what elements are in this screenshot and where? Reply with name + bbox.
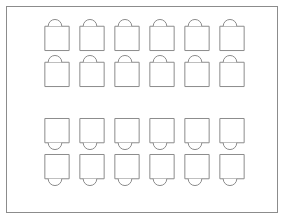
table-shape [185,154,209,178]
seat-unit[interactable] [75,154,109,188]
table-shape [220,62,244,86]
chair-shape [118,179,132,186]
table-shape [80,118,104,142]
seat-unit[interactable] [215,54,249,88]
seat-unit[interactable] [40,54,74,88]
table-shape [220,118,244,142]
chair-shape [83,19,97,26]
chair-shape [188,179,202,186]
chair-shape [223,179,237,186]
chair-shape [48,179,62,186]
chair-shape [223,19,237,26]
table-shape [115,154,139,178]
table-shape [150,26,174,50]
chair-shape [153,143,167,150]
chair-shape [118,143,132,150]
seat-unit[interactable] [40,154,74,188]
diagram-canvas [0,0,286,223]
table-shape [115,62,139,86]
chair-shape [188,19,202,26]
chair-shape [48,19,62,26]
table-shape [45,26,69,50]
chair-shape [118,55,132,62]
table-shape [185,118,209,142]
table-shape [150,154,174,178]
chair-shape [223,143,237,150]
chair-shape [153,179,167,186]
chair-shape [223,55,237,62]
seat-unit[interactable] [215,118,249,152]
seat-unit[interactable] [145,54,179,88]
table-shape [220,26,244,50]
table-shape [80,26,104,50]
seat-unit[interactable] [110,18,144,52]
chair-shape [153,55,167,62]
chair-shape [188,55,202,62]
chair-shape [118,19,132,26]
table-shape [80,62,104,86]
chair-shape [83,55,97,62]
seat-unit[interactable] [75,54,109,88]
table-shape [45,118,69,142]
table-shape [45,62,69,86]
seat-unit[interactable] [75,18,109,52]
table-shape [115,118,139,142]
table-shape [185,26,209,50]
seat-unit[interactable] [215,18,249,52]
seat-unit[interactable] [180,54,214,88]
table-shape [45,154,69,178]
seat-unit[interactable] [145,18,179,52]
seat-unit[interactable] [40,18,74,52]
seat-unit[interactable] [180,18,214,52]
chair-shape [83,143,97,150]
seat-unit[interactable] [180,154,214,188]
table-shape [80,154,104,178]
chair-shape [83,179,97,186]
table-shape [150,118,174,142]
table-shape [115,26,139,50]
chair-shape [188,143,202,150]
chair-shape [48,143,62,150]
seat-unit[interactable] [75,118,109,152]
seat-unit[interactable] [180,118,214,152]
chair-shape [153,19,167,26]
seat-unit[interactable] [110,154,144,188]
seat-unit[interactable] [110,54,144,88]
seat-unit[interactable] [110,118,144,152]
seat-unit[interactable] [40,118,74,152]
chair-shape [48,55,62,62]
table-shape [185,62,209,86]
seat-unit[interactable] [145,154,179,188]
seat-unit[interactable] [215,154,249,188]
table-shape [220,154,244,178]
seat-unit[interactable] [145,118,179,152]
table-shape [150,62,174,86]
